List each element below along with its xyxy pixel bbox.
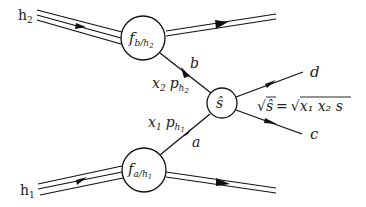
parton-a-label: a: [192, 134, 200, 150]
hadron-h2-label: h2: [18, 7, 33, 25]
momentum-bottom-label: x1ph1: [148, 114, 185, 134]
energy-relation: √ŝ=√x₁ x₂ s: [257, 98, 343, 114]
arrow-icon: [265, 80, 276, 88]
outgoing-c-label: c: [310, 125, 319, 143]
arrow-icon: [76, 177, 87, 185]
hard-process-label: ŝ: [216, 95, 223, 111]
momentum-top-label: x2ph2: [152, 75, 189, 95]
parton-diagram: fb/h2 h2 b x2ph2 fa/h1 h1 a x1ph1 d c ŝ …: [0, 0, 366, 207]
arrow-icon: [181, 67, 190, 78]
arrow-icon: [216, 178, 230, 186]
outgoing-d-label: d: [310, 63, 320, 81]
parton-b-label: b: [190, 55, 199, 71]
arrow-icon: [264, 118, 277, 124]
hadron-h1-label: h1: [20, 182, 35, 200]
